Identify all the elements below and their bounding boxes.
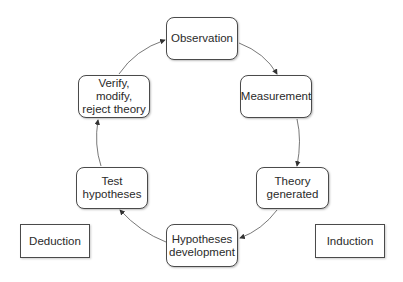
node-verify-modify-reject: Verify, modify, reject theory [78,75,150,118]
node-test-hypotheses: Test hypotheses [76,167,148,209]
induction-text: Induction [327,235,374,248]
arrow-measurement-to-theory [297,119,300,166]
node-label: Observation [171,32,233,45]
node-theory-generated: Theory generated [256,167,329,209]
node-measurement: Measurement [240,75,312,118]
deduction-text: Deduction [29,235,81,248]
arrow-theory-to-hypotheses [240,210,277,238]
arrow-test-to-verify [97,120,101,166]
arrow-hypotheses-to-test [120,210,166,242]
node-label: Hypotheses development [169,233,235,259]
node-label: Verify, modify, reject theory [79,77,149,116]
label-deduction: Deduction [20,224,90,258]
node-label: Measurement [241,90,311,103]
label-induction: Induction [315,224,385,258]
node-hypotheses-development: Hypotheses development [166,224,238,267]
node-label: Theory generated [267,175,319,201]
arrow-observation-to-measurement [239,43,277,74]
node-label: Test hypotheses [83,175,142,201]
arrow-verify-to-observation [119,40,165,74]
node-observation: Observation [166,17,238,60]
